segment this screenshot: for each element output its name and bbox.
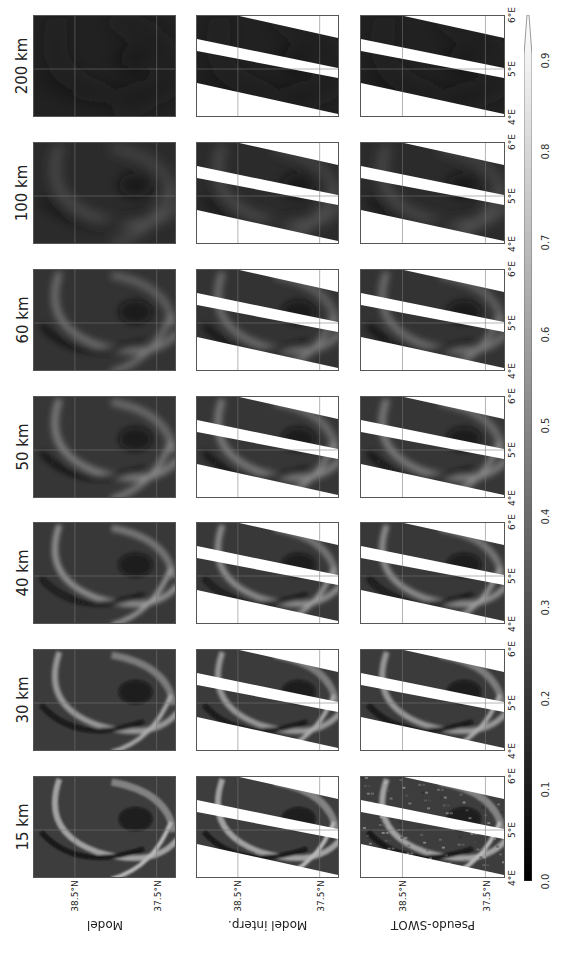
panel-pseudo-swot-30km bbox=[360, 649, 505, 751]
lon-tick-label: 4°E bbox=[507, 109, 517, 125]
panel-model-interp--50km bbox=[196, 396, 339, 498]
panel-pseudo-swot-50km bbox=[360, 396, 505, 498]
column-title: 60 km bbox=[13, 296, 31, 343]
panel-model-40km bbox=[33, 522, 176, 624]
column-title: 30 km bbox=[13, 676, 31, 723]
lat-tick-label: 37.5°N bbox=[316, 880, 326, 911]
lon-tick-label: 6°E bbox=[507, 7, 517, 23]
lon-tick-label: 5°E bbox=[507, 315, 517, 331]
lon-tick-label: 6°E bbox=[507, 388, 517, 404]
row-label: Pseudo-SWOT bbox=[391, 918, 475, 932]
lat-tick-label: 38.5°N bbox=[233, 880, 243, 911]
panel-pseudo-swot-100km bbox=[360, 142, 505, 244]
panel-model-15km bbox=[33, 776, 176, 878]
colorbar bbox=[524, 15, 532, 881]
colorbar-tick-label: 0.0 bbox=[540, 873, 551, 889]
lon-tick-label: 5°E bbox=[507, 695, 517, 711]
lon-tick-label: 4°E bbox=[507, 236, 517, 252]
lat-tick-label: 37.5°N bbox=[153, 880, 163, 911]
lon-tick-label: 6°E bbox=[507, 768, 517, 784]
lat-tick-label: 38.5°N bbox=[397, 880, 407, 911]
colorbar-tick-label: 0.7 bbox=[540, 235, 551, 251]
lon-tick-label: 4°E bbox=[507, 363, 517, 379]
lat-tick-label: 38.5°N bbox=[70, 880, 80, 911]
colorbar-tick-label: 0.4 bbox=[540, 508, 551, 524]
panel-model-200km bbox=[33, 15, 176, 117]
lon-tick-label: 5°E bbox=[507, 568, 517, 584]
colorbar-tick-label: 0.2 bbox=[540, 691, 551, 707]
panel-pseudo-swot-200km bbox=[360, 15, 505, 117]
panel-pseudo-swot-60km bbox=[360, 269, 505, 371]
panel-model-interp--15km bbox=[196, 776, 339, 878]
panel-model-interp--40km bbox=[196, 522, 339, 624]
panel-model-30km bbox=[33, 649, 176, 751]
column-title: 40 km bbox=[13, 549, 31, 596]
panel-model-interp--200km bbox=[196, 15, 339, 117]
lon-tick-label: 4°E bbox=[507, 616, 517, 632]
row-label: Model interp. bbox=[228, 918, 307, 932]
panel-pseudo-swot-40km bbox=[360, 522, 505, 624]
colorbar-tick-label: 0.8 bbox=[540, 144, 551, 160]
column-title: 15 km bbox=[13, 803, 31, 850]
lon-tick-label: 4°E bbox=[507, 490, 517, 506]
lon-tick-label: 5°E bbox=[507, 822, 517, 838]
column-title: 50 km bbox=[13, 423, 31, 470]
panel-model-interp--30km bbox=[196, 649, 339, 751]
panel-model-100km bbox=[33, 142, 176, 244]
colorbar-tick-label: 0.3 bbox=[540, 600, 551, 616]
lon-tick-label: 6°E bbox=[507, 134, 517, 150]
colorbar-tick-label: 0.9 bbox=[540, 53, 551, 69]
panel-model-interp--60km bbox=[196, 269, 339, 371]
lon-tick-label: 6°E bbox=[507, 641, 517, 657]
column-title: 200 km bbox=[13, 38, 31, 95]
lon-tick-label: 5°E bbox=[507, 442, 517, 458]
column-title: 100 km bbox=[13, 165, 31, 222]
panel-pseudo-swot-15km bbox=[360, 776, 505, 878]
lon-tick-label: 6°E bbox=[507, 261, 517, 277]
lon-tick-label: 6°E bbox=[507, 514, 517, 530]
panel-model-60km bbox=[33, 269, 176, 371]
lon-tick-label: 4°E bbox=[507, 743, 517, 759]
row-label: Model bbox=[87, 918, 123, 932]
lon-tick-label: 5°E bbox=[507, 188, 517, 204]
lon-tick-label: 5°E bbox=[507, 61, 517, 77]
panel-model-interp--100km bbox=[196, 142, 339, 244]
lon-tick-label: 4°E bbox=[507, 870, 517, 886]
colorbar-tick-label: 0.5 bbox=[540, 417, 551, 433]
colorbar-tick-label: 0.1 bbox=[540, 782, 551, 798]
lat-tick-label: 37.5°N bbox=[481, 880, 491, 911]
colorbar-tick-label: 0.6 bbox=[540, 326, 551, 342]
panel-model-50km bbox=[33, 396, 176, 498]
